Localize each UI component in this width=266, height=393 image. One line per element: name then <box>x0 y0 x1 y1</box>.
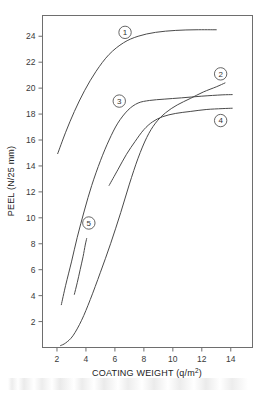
svg-text:COATING WEIGHT (q/m2): COATING WEIGHT (q/m2) <box>92 367 202 378</box>
series-marker-label-3: 3 <box>117 97 122 106</box>
y-tick-label-12: 12 <box>26 187 36 197</box>
x-tick-label-6: 6 <box>113 354 118 364</box>
x-tick-label-2: 2 <box>55 354 60 364</box>
y-tick-label-2: 2 <box>31 317 36 327</box>
x-axis-title-tail: ) <box>199 368 202 378</box>
svg-text:PEEL (N/25 mm): PEEL (N/25 mm) <box>6 146 16 216</box>
chart-canvas: 2468101214 24681012141618202224 12345 CO… <box>0 0 266 393</box>
y-tick-label-16: 16 <box>26 135 36 145</box>
x-tick-label-10: 10 <box>168 354 178 364</box>
y-tick-label-22: 22 <box>26 57 36 67</box>
y-tick-label-6: 6 <box>31 265 36 275</box>
y-tick-label-10: 10 <box>26 213 36 223</box>
x-tick-label-14: 14 <box>226 354 236 364</box>
x-tick-label-12: 12 <box>197 354 207 364</box>
peel-vs-coating-weight-chart: 2468101214 24681012141618202224 12345 CO… <box>0 0 266 393</box>
y-tick-label-14: 14 <box>26 161 36 171</box>
x-tick-label-8: 8 <box>142 354 147 364</box>
y-axis-title: PEEL (N/25 mm) <box>6 146 16 216</box>
series-marker-label-5: 5 <box>87 219 92 228</box>
series-marker-label-1: 1 <box>123 28 128 37</box>
series-marker-label-4: 4 <box>218 116 223 125</box>
page-caption-artifact <box>8 378 258 390</box>
y-tick-label-24: 24 <box>26 31 36 41</box>
x-axis-title-base: COATING WEIGHT (q/m <box>92 368 195 378</box>
series-marker-label-2: 2 <box>218 70 223 79</box>
chart-background <box>0 0 266 393</box>
y-tick-label-4: 4 <box>31 291 36 301</box>
y-tick-label-8: 8 <box>31 239 36 249</box>
y-tick-label-20: 20 <box>26 83 36 93</box>
y-tick-label-18: 18 <box>26 109 36 119</box>
x-axis-title: COATING WEIGHT (q/m2) <box>92 367 202 378</box>
x-tick-label-4: 4 <box>84 354 89 364</box>
